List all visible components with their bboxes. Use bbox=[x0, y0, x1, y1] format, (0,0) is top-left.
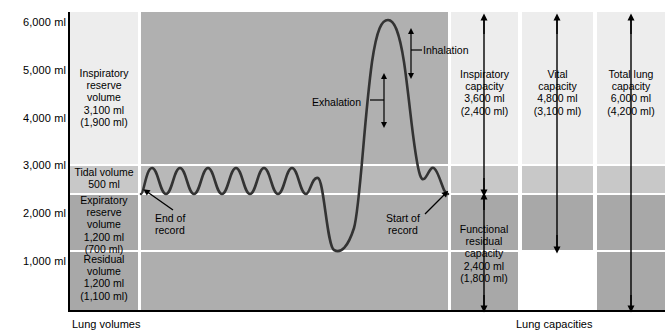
rv-label-line-3: 1,200 ml bbox=[70, 277, 138, 289]
vc-label-line-4: (3,100 ml) bbox=[522, 105, 593, 117]
level-line-tidal-top bbox=[70, 164, 665, 166]
start-of-record-line-1: Start of bbox=[386, 212, 420, 224]
irv-label-line-3: volume bbox=[70, 91, 138, 103]
lung-volumes-capacities-figure: 6,000 ml 5,000 ml 4,000 ml 3,000 ml 2,00… bbox=[0, 0, 670, 334]
inhalation-text: Inhalation bbox=[423, 44, 469, 56]
tidal-label-line-2: 500 ml bbox=[66, 178, 142, 190]
tidal-volume-label: Tidal volume 500 ml bbox=[66, 166, 142, 190]
x-axis-line bbox=[68, 310, 665, 312]
end-of-record-line-2: record bbox=[155, 224, 185, 236]
end-of-record-line-1: End of bbox=[155, 212, 185, 224]
frc-label-line-3: capacity bbox=[447, 247, 521, 259]
ic-label-line-4: (2,400 ml) bbox=[449, 105, 520, 117]
functional-residual-capacity-label: Functional residual capacity 2,400 ml (1… bbox=[447, 223, 521, 284]
tlc-label-line-2: capacity bbox=[595, 80, 667, 92]
lung-volumes-caption: Lung volumes bbox=[72, 318, 141, 330]
lung-capacities-caption: Lung capacities bbox=[516, 318, 592, 330]
total-lung-capacity-label: Total lung capacity 6,000 ml (4,200 ml) bbox=[595, 68, 667, 117]
lung-capacities-caption-text: Lung capacities bbox=[516, 318, 592, 330]
start-of-record-line-2: record bbox=[386, 224, 420, 236]
frc-label-line-5: (1,800 ml) bbox=[447, 272, 521, 284]
irv-label-line-1: Inspiratory bbox=[70, 67, 138, 79]
irv-label-line-2: reserve bbox=[70, 79, 138, 91]
irv-label: Inspiratory reserve volume 3,100 ml (1,9… bbox=[70, 67, 138, 128]
frc-label-line-2: residual bbox=[447, 235, 521, 247]
y-tick-6000: 6,000 ml bbox=[0, 17, 66, 28]
rv-label-line-2: volume bbox=[70, 265, 138, 277]
tlc-label-line-4: (4,200 ml) bbox=[595, 105, 667, 117]
tlc-label-line-1: Total lung bbox=[595, 68, 667, 80]
tlc-block-tidal bbox=[597, 165, 665, 194]
erv-label-line-4: 1,200 ml bbox=[70, 231, 138, 243]
y-tick-4000: 4,000 ml bbox=[0, 113, 66, 124]
inhalation-annotation: Inhalation bbox=[423, 44, 469, 56]
tlc-label-line-3: 6,000 ml bbox=[595, 92, 667, 104]
level-line-residual-top bbox=[70, 250, 665, 252]
y-axis-labels: 6,000 ml 5,000 ml 4,000 ml 3,000 ml 2,00… bbox=[0, 0, 66, 334]
end-of-record-annotation: End of record bbox=[155, 212, 185, 236]
exhalation-annotation: Exhalation bbox=[312, 96, 361, 108]
start-of-record-annotation: Start of record bbox=[386, 212, 420, 236]
erv-label-line-1: Expiratory bbox=[70, 194, 138, 206]
tidal-label-line-1: Tidal volume bbox=[66, 166, 142, 178]
tlc-block-residual bbox=[597, 251, 665, 311]
inspiratory-capacity-label: Inspiratory capacity 3,600 ml (2,400 ml) bbox=[449, 68, 520, 117]
rv-label-line-4: (1,100 ml) bbox=[70, 290, 138, 302]
vc-label-line-2: capacity bbox=[522, 80, 593, 92]
vc-block-tidal bbox=[522, 165, 593, 194]
ic-block-tidal bbox=[451, 165, 518, 194]
vc-block-erv bbox=[522, 194, 593, 251]
trace-panel-upper bbox=[141, 12, 448, 165]
exhalation-text: Exhalation bbox=[312, 96, 361, 108]
erv-label-line-3: volume bbox=[70, 218, 138, 230]
vc-label-line-3: 4,800 ml bbox=[522, 92, 593, 104]
residual-volume-label: Residual volume 1,200 ml (1,100 ml) bbox=[70, 253, 138, 302]
level-line-tidal-bottom bbox=[70, 193, 665, 195]
vc-label-line-1: Vital bbox=[522, 68, 593, 80]
ic-label-line-1: Inspiratory bbox=[449, 68, 520, 80]
irv-label-line-5: (1,900 ml) bbox=[70, 116, 138, 128]
frc-label-line-1: Functional bbox=[447, 223, 521, 235]
tlc-block-erv bbox=[597, 194, 665, 251]
y-tick-2000: 2,000 ml bbox=[0, 208, 66, 219]
erv-label-line-2: reserve bbox=[70, 206, 138, 218]
y-tick-3000: 3,000 ml bbox=[0, 160, 66, 171]
irv-label-line-4: 3,100 ml bbox=[70, 104, 138, 116]
ic-label-line-2: capacity bbox=[449, 80, 520, 92]
erv-label: Expiratory reserve volume 1,200 ml (700 … bbox=[70, 194, 138, 255]
vital-capacity-label: Vital capacity 4,800 ml (3,100 ml) bbox=[522, 68, 593, 117]
lung-volumes-caption-text: Lung volumes bbox=[72, 318, 141, 330]
frc-label-line-4: 2,400 ml bbox=[447, 260, 521, 272]
y-tick-5000: 5,000 ml bbox=[0, 65, 66, 76]
trace-panel-tidal bbox=[141, 165, 448, 194]
ic-label-line-3: 3,600 ml bbox=[449, 92, 520, 104]
rv-label-line-1: Residual bbox=[70, 253, 138, 265]
y-tick-1000: 1,000 ml bbox=[0, 256, 66, 267]
